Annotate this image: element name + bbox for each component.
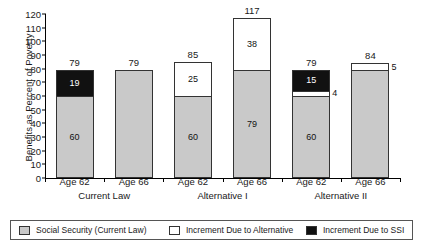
- bar-segment: [115, 70, 153, 178]
- bar-segment: 60: [174, 96, 212, 178]
- y-axis-tick-mark: [42, 96, 46, 97]
- legend-swatch-icon: [19, 226, 30, 235]
- y-axis-tick-mark: [42, 137, 46, 138]
- legend-swatch-icon: [306, 226, 317, 235]
- bar-segment: 5: [351, 63, 389, 70]
- y-axis-tick-mark: [42, 123, 46, 124]
- bar-1[interactable]: 601979: [56, 70, 94, 178]
- legend-swatch-icon: [169, 226, 180, 235]
- bar-total-label: 85: [174, 49, 212, 60]
- y-axis-tick-mark: [42, 109, 46, 110]
- legend-label: Social Security (Current Law): [36, 225, 147, 235]
- bar-3[interactable]: 602585: [174, 62, 212, 178]
- y-axis-tick-label: 110: [26, 22, 41, 33]
- chart-legend: Social Security (Current Law) Increment …: [10, 220, 413, 240]
- bar-total-label: 117: [233, 5, 271, 16]
- x-axis-age-label: Age 66: [335, 176, 405, 187]
- plot-area: 0102030405060708090100110120 60197979602…: [45, 10, 400, 180]
- y-axis-tick-mark: [42, 68, 46, 69]
- bar-segment: 38: [233, 18, 271, 70]
- bar-total-label: 79: [115, 57, 153, 68]
- y-axis-tick-label: 30: [30, 132, 41, 143]
- bar-5[interactable]: 6041579: [292, 70, 330, 178]
- bar-segment: 60: [292, 96, 330, 178]
- bar-total-label: 79: [56, 57, 94, 68]
- bar-4[interactable]: 7938117: [233, 18, 271, 178]
- y-axis-tick-label: 10: [30, 159, 41, 170]
- y-axis-tick-label: 20: [30, 145, 41, 156]
- bar-segment: 19: [56, 70, 94, 96]
- bar-total-label: 79: [292, 57, 330, 68]
- y-axis-tick-mark: [42, 41, 46, 42]
- y-axis-tick-mark: [42, 14, 46, 15]
- bar-total-label: 84: [351, 50, 389, 61]
- y-axis-tick-label: 40: [30, 118, 41, 129]
- bar-2[interactable]: 79: [115, 70, 153, 178]
- segment-value-label: 4: [332, 89, 337, 98]
- y-axis-tick-label: 60: [30, 91, 41, 102]
- y-axis-tick-label: 50: [30, 104, 41, 115]
- segment-value-label: 15: [306, 76, 316, 85]
- segment-value-label: 60: [306, 133, 316, 142]
- y-axis-tick-label: 70: [30, 77, 41, 88]
- legend-label: Increment Due to Alternative: [186, 225, 293, 235]
- bar-segment: 79: [233, 70, 271, 178]
- legend-item-increment-alternative: Increment Due to Alternative: [169, 225, 293, 235]
- legend-label: Increment Due to SSI: [323, 225, 404, 235]
- segment-value-label: 79: [247, 120, 257, 129]
- bar-segment: 60: [56, 96, 94, 178]
- bar-segment: 15: [292, 70, 330, 91]
- y-axis-tick-mark: [42, 82, 46, 83]
- x-axis-group-label: Alternative II: [271, 190, 411, 201]
- segment-value-label: 5: [391, 63, 396, 72]
- y-axis-tick-label: 80: [30, 63, 41, 74]
- bar-6[interactable]: 584: [351, 63, 389, 178]
- y-axis-tick-mark: [42, 150, 46, 151]
- y-axis-tick-mark: [42, 55, 46, 56]
- segment-value-label: 38: [247, 40, 257, 49]
- segment-value-label: 60: [70, 133, 80, 142]
- segment-value-label: 19: [70, 79, 80, 88]
- chart-container: Benefits as Percent of Poverty 010203040…: [0, 0, 423, 244]
- bar-segment: 25: [174, 62, 212, 96]
- bar-segment: [351, 70, 389, 178]
- y-axis-tick-label: 100: [25, 36, 41, 47]
- segment-value-label: 25: [188, 75, 198, 84]
- y-axis-tick-label: 120: [25, 9, 41, 20]
- y-axis-tick-mark: [42, 164, 46, 165]
- y-axis-tick-label: 90: [30, 50, 41, 61]
- legend-item-increment-ssi: Increment Due to SSI: [306, 225, 404, 235]
- y-axis-tick-mark: [42, 27, 46, 28]
- segment-value-label: 60: [188, 133, 198, 142]
- legend-item-social-security: Social Security (Current Law): [19, 225, 147, 235]
- bar-segment: 4: [292, 91, 330, 96]
